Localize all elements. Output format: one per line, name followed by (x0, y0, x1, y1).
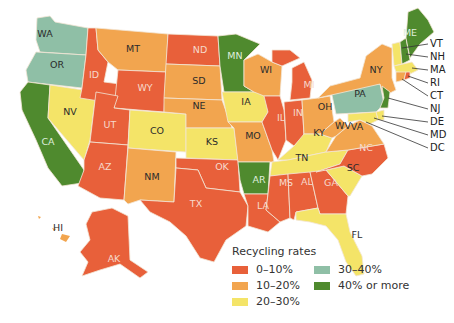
label-ID: ID (89, 69, 99, 80)
swatch-20-30 (232, 298, 248, 306)
callout-VT: VT (430, 38, 444, 49)
label-IL: IL (277, 112, 286, 123)
callout-MA: MA (430, 64, 446, 75)
label-NE: NE (192, 100, 205, 111)
label-AR: AR (252, 174, 265, 185)
label-AZ: AZ (98, 161, 111, 172)
label-PA: PA (354, 88, 366, 99)
label-FL: FL (352, 229, 363, 240)
legend-item-40-plus: 40% or more (314, 279, 409, 292)
label-HI: HI (53, 222, 63, 233)
label-NV: NV (63, 106, 77, 117)
callout-MD: MD (430, 129, 447, 140)
label-WV: WV (335, 120, 351, 131)
label-SC: SC (347, 162, 360, 173)
swatch-40-plus (314, 282, 330, 290)
legend-item-10-20: 10–20% (232, 279, 300, 292)
label-OK: OK (215, 161, 229, 172)
legend-title: Recycling rates (232, 245, 316, 258)
callout-DC: DC (430, 142, 445, 153)
label-MI: MI (304, 79, 315, 90)
label-TN: TN (295, 152, 309, 163)
callout-DE: DE (430, 116, 444, 127)
label-NY: NY (370, 64, 383, 75)
label-IN: IN (293, 107, 303, 118)
callout-CT: CT (430, 90, 444, 101)
label-IA: IA (241, 96, 251, 107)
swatch-30-40 (314, 266, 330, 274)
label-NC: NC (359, 142, 373, 153)
label-AK: AK (108, 253, 121, 264)
label-WI: WI (260, 64, 272, 75)
label-ND: ND (193, 44, 207, 55)
label-MS: MS (279, 177, 293, 188)
label-LA: LA (257, 200, 270, 211)
legend-item-30-40: 30–40% (314, 263, 382, 276)
callout-NH: NH (430, 51, 445, 62)
label-CA: CA (41, 136, 55, 147)
label-VA: VA (351, 121, 364, 132)
label-WY: WY (137, 82, 152, 93)
map-legend: Recycling rates 0–10% 10–20% 20–30% 30–4… (232, 245, 452, 315)
label-WA: WA (37, 28, 53, 39)
callout-NJ: NJ (430, 103, 440, 114)
label-SD: SD (192, 75, 205, 86)
label-TX: TX (189, 198, 203, 209)
label-MO: MO (245, 130, 261, 141)
label-OH: OH (318, 101, 333, 112)
label-NM: NM (144, 171, 159, 182)
label-MN: MN (227, 50, 242, 61)
label-OR: OR (50, 59, 64, 70)
label-UT: UT (104, 119, 117, 130)
callout-RI: RI (430, 77, 440, 88)
swatch-0-10 (232, 266, 248, 274)
state-AK (80, 208, 148, 278)
label-CO: CO (150, 125, 164, 136)
label-GA: GA (324, 177, 338, 188)
legend-item-0-10: 0–10% (232, 263, 293, 276)
label-MT: MT (126, 43, 140, 54)
label-KS: KS (206, 136, 218, 147)
legend-item-20-30: 20–30% (232, 295, 300, 308)
swatch-10-20 (232, 282, 248, 290)
label-KY: KY (313, 127, 325, 138)
label-ME: ME (403, 27, 417, 38)
label-AL: AL (301, 176, 313, 187)
